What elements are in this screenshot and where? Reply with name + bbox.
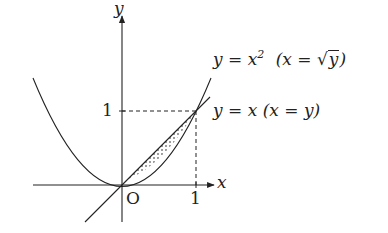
x-tick-label-1: 1 bbox=[190, 188, 201, 208]
parabola-label: y = x2 (x = √y) bbox=[213, 48, 346, 69]
line-label: y = x (x = y) bbox=[213, 100, 320, 120]
x-axis-label: x bbox=[217, 172, 227, 192]
y-tick-label-1: 1 bbox=[102, 100, 113, 120]
origin-label: O bbox=[126, 188, 140, 208]
diagram-canvas: y x O 1 1 y = x2 (x = √y) y = x (x = y) bbox=[0, 0, 388, 233]
y-axis-label: y bbox=[114, 0, 124, 18]
